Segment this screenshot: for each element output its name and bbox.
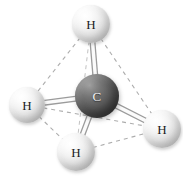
tetrahedron-edge-top-left	[37, 38, 80, 92]
atom-h-left[interactable]: H	[9, 87, 45, 123]
atom-label-c-center: C	[93, 90, 102, 103]
atom-label-h-right: H	[157, 123, 167, 136]
tetrahedron-edge-bottom-right	[93, 134, 145, 148]
tetrahedron-edge-left-bottom	[39, 116, 63, 139]
atom-label-h-left: H	[22, 99, 32, 112]
methane-molecule-figure: H H C H H	[0, 0, 183, 178]
atom-label-h-bottom: H	[71, 146, 81, 159]
atom-h-top[interactable]: H	[72, 5, 110, 43]
atom-h-right[interactable]: H	[143, 110, 181, 148]
atom-c-center[interactable]: C	[75, 74, 119, 118]
atom-label-h-top: H	[86, 18, 96, 31]
atom-h-bottom[interactable]: H	[57, 133, 95, 171]
